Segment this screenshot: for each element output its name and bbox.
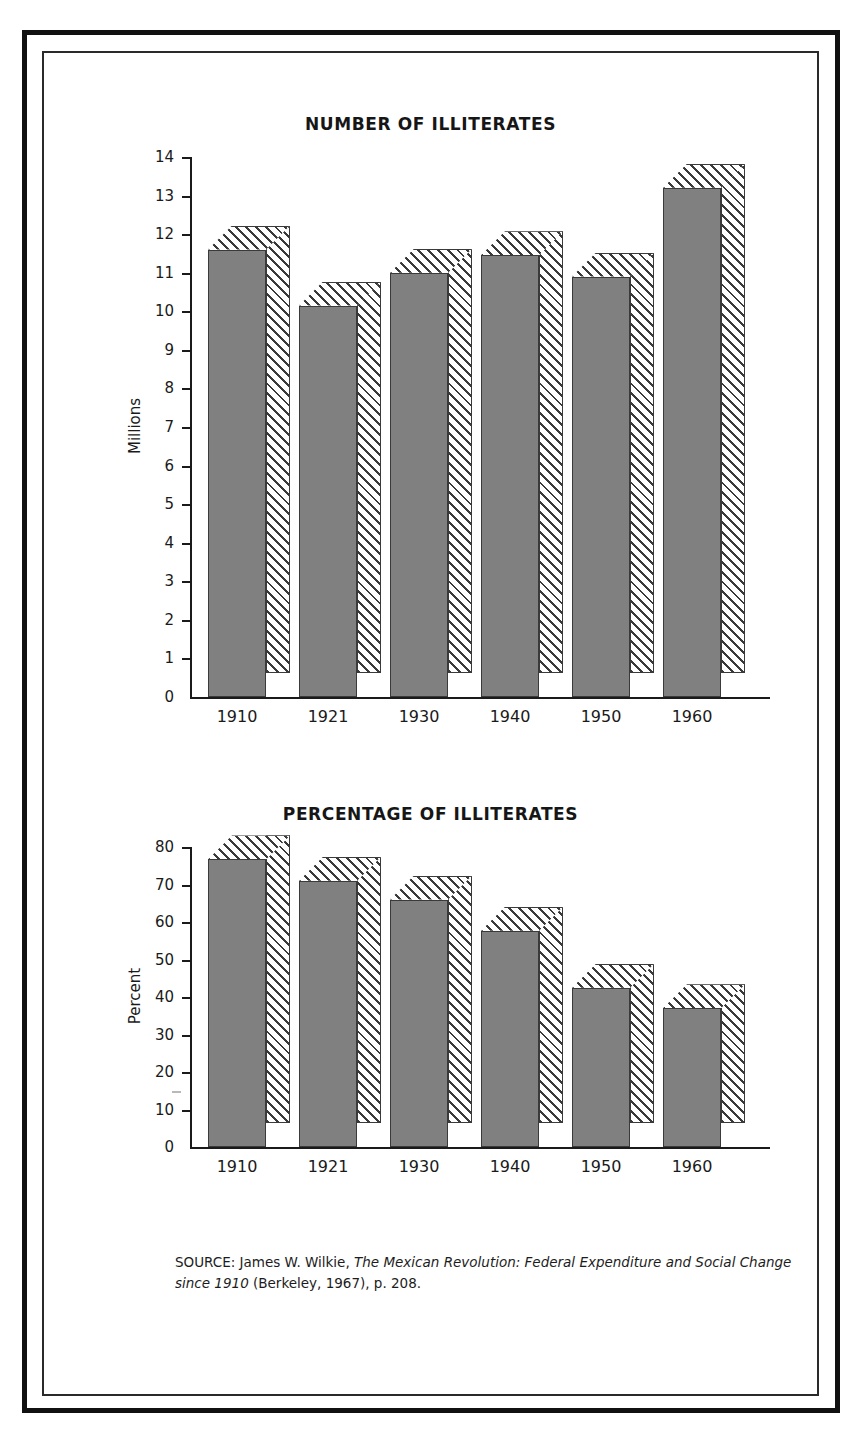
x-axis-category-label: 1950 [566, 707, 636, 726]
y-axis-tick [182, 157, 191, 159]
bar-front-face [481, 255, 539, 697]
bar-front-face [663, 1008, 721, 1147]
bar-front-face [572, 277, 630, 697]
y-axis-tick-label: 12 [134, 225, 174, 243]
scan-artifact-mark [172, 1091, 181, 1093]
y-axis-tick-label: 0 [134, 1138, 174, 1156]
bar-side-face [630, 964, 654, 1123]
x-axis-category-label: 1960 [657, 1157, 727, 1176]
bar-front-face [299, 881, 357, 1147]
y-axis-tick [182, 620, 191, 622]
y-axis-tick [182, 196, 191, 198]
bar [208, 835, 290, 1147]
plot-area: 01020304050607080Percent1910192119301940… [42, 842, 819, 1207]
y-axis-tick [182, 273, 191, 275]
x-axis-category-label: 1940 [475, 707, 545, 726]
bar-side-face [266, 835, 290, 1123]
bar [481, 907, 563, 1147]
y-axis-tick [182, 922, 191, 924]
x-axis-category-label: 1940 [475, 1157, 545, 1176]
scan-header-remnant [34, 2, 534, 12]
bar-side-face [448, 249, 472, 673]
x-axis-line [190, 697, 770, 699]
source-prefix: SOURCE: James W. Wilkie, [175, 1254, 354, 1270]
x-axis-category-label: 1960 [657, 707, 727, 726]
bar [390, 876, 472, 1148]
y-axis-tick-label: 70 [134, 876, 174, 894]
bar [572, 964, 654, 1147]
x-axis-category-label: 1930 [384, 1157, 454, 1176]
y-axis-tick [182, 960, 191, 962]
bar [299, 282, 381, 698]
source-note: SOURCE: James W. Wilkie, The Mexican Rev… [175, 1252, 795, 1294]
y-axis-tick-label: 10 [134, 1101, 174, 1119]
source-suffix: (Berkeley, 1967), p. 208. [249, 1275, 421, 1291]
bar-side-face [357, 857, 381, 1123]
bar-side-face [721, 164, 745, 673]
y-axis-tick [182, 543, 191, 545]
bar-side-face [448, 876, 472, 1124]
y-axis-tick-label: 3 [134, 572, 174, 590]
y-axis-tick [182, 847, 191, 849]
y-axis-tick-label: 1 [134, 649, 174, 667]
bar-front-face [481, 931, 539, 1147]
y-axis-tick [182, 234, 191, 236]
bar-front-face [390, 273, 448, 697]
y-axis-tick-label: 0 [134, 688, 174, 706]
y-axis-tick [182, 504, 191, 506]
bar [208, 226, 290, 697]
y-axis-tick-label: 4 [134, 534, 174, 552]
bar-side-face [266, 226, 290, 673]
y-axis-tick [182, 1072, 191, 1074]
y-axis-tick [182, 1110, 191, 1112]
y-axis-title: Percent [126, 916, 144, 1076]
x-axis-category-label: 1921 [293, 1157, 363, 1176]
y-axis-tick-label: 11 [134, 264, 174, 282]
y-axis-title: Millions [126, 346, 144, 506]
bar-side-face [539, 231, 563, 673]
y-axis-tick [182, 466, 191, 468]
x-axis-category-label: 1950 [566, 1157, 636, 1176]
x-axis-category-label: 1930 [384, 707, 454, 726]
bar-front-face [299, 306, 357, 698]
y-axis-tick [182, 311, 191, 313]
y-axis-tick [182, 388, 191, 390]
y-axis-tick [182, 1035, 191, 1037]
bar [299, 857, 381, 1147]
bar-front-face [390, 900, 448, 1148]
x-axis-category-label: 1910 [202, 1157, 272, 1176]
y-axis-tick [182, 581, 191, 583]
y-axis-tick [182, 658, 191, 660]
bar-front-face [208, 250, 266, 697]
chart-percentage-of-illiterates: PERCENTAGE OF ILLITERATES 01020304050607… [42, 790, 819, 1230]
bar-front-face [663, 188, 721, 697]
y-axis-tick-label: 13 [134, 187, 174, 205]
bar-side-face [721, 984, 745, 1123]
bar [572, 253, 654, 697]
x-axis-category-label: 1910 [202, 707, 272, 726]
bar-front-face [572, 988, 630, 1147]
bar-side-face [357, 282, 381, 674]
bar [663, 164, 745, 697]
y-axis-tick-label: 14 [134, 148, 174, 166]
bar-front-face [208, 859, 266, 1147]
chart-number-of-illiterates: NUMBER OF ILLITERATES 012345678910111213… [42, 100, 819, 780]
x-axis-category-label: 1921 [293, 707, 363, 726]
plot-area: 01234567891011121314Millions191019211930… [42, 152, 819, 752]
y-axis-tick-label: 2 [134, 611, 174, 629]
y-axis-tick [182, 997, 191, 999]
chart-title: NUMBER OF ILLITERATES [42, 114, 819, 134]
bar-side-face [539, 907, 563, 1123]
y-axis-tick-label: 10 [134, 302, 174, 320]
y-axis-tick [182, 885, 191, 887]
chart-title: PERCENTAGE OF ILLITERATES [42, 804, 819, 824]
bar [481, 231, 563, 697]
figure-page: NUMBER OF ILLITERATES 012345678910111213… [0, 0, 852, 1431]
bar [390, 249, 472, 697]
y-axis-tick-label: 80 [134, 838, 174, 856]
y-axis-tick [182, 350, 191, 352]
bar-side-face [630, 253, 654, 673]
y-axis-tick [182, 427, 191, 429]
x-axis-line [190, 1147, 770, 1149]
bar [663, 984, 745, 1147]
